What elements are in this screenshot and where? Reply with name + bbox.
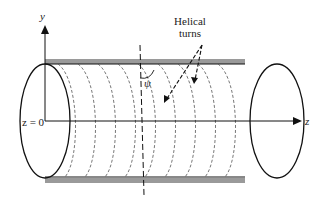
z-axis-label: z: [305, 115, 309, 127]
annotation-line2: turns: [160, 27, 220, 39]
origin-label: z = 0: [22, 116, 44, 128]
annotation-line1: Helical: [160, 15, 220, 27]
bottom-band: [45, 178, 245, 183]
diagram: y z z = 0 ψ Helical turns: [0, 0, 321, 205]
angle-label: ψ: [144, 77, 151, 89]
arrowhead-icon: [191, 77, 198, 84]
helical-turns-annotation: Helical turns: [160, 15, 220, 39]
annotation-arrows: [166, 45, 202, 100]
y-axis-arrow-icon: [41, 25, 49, 34]
top-band: [45, 59, 245, 64]
y-axis-label: y: [40, 10, 45, 22]
